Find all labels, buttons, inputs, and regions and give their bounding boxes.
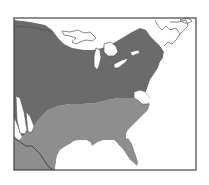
range-map <box>0 0 209 185</box>
map-canvas <box>0 0 209 185</box>
